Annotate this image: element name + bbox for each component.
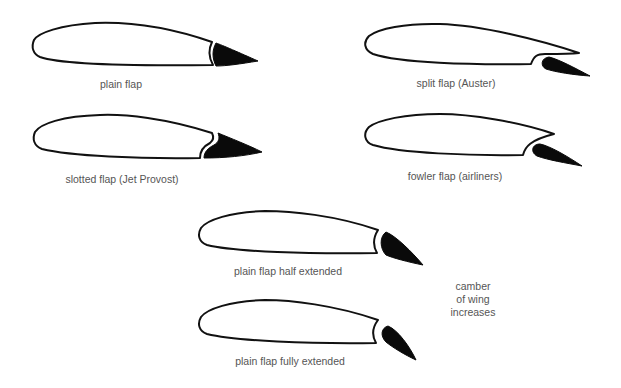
wing-section <box>34 115 214 158</box>
plain-flap-fully-extended-figure <box>199 300 416 360</box>
camber-annotation: camber of wing increases <box>451 280 496 319</box>
split-flap-label: split flap (Auster) <box>417 77 496 90</box>
slotted-flap-label: slotted flap (Jet Provost) <box>65 173 178 186</box>
diagram-drawing <box>0 0 621 388</box>
wing-section <box>33 23 213 65</box>
slotted-flap-figure <box>34 115 262 158</box>
plain-flap-fully-extended-label: plain flap fully extended <box>235 355 345 368</box>
plain-flap-half-extended-figure <box>199 211 423 265</box>
annotation-line-3: increases <box>451 306 496 319</box>
fowler-flap-figure <box>365 114 582 166</box>
fowler-flap-label: fowler flap (airliners) <box>408 170 503 183</box>
flap <box>382 326 416 360</box>
wing-section <box>365 114 554 155</box>
flap <box>381 232 423 265</box>
flap <box>533 144 582 166</box>
split-flap-figure <box>365 24 590 76</box>
annotation-line-1: camber <box>451 280 496 293</box>
plain-flap-label: plain flap <box>100 78 142 91</box>
annotation-line-2: of wing <box>451 293 496 306</box>
flap <box>542 57 590 76</box>
plain-flap-figure <box>33 23 258 66</box>
wing-section <box>199 211 378 253</box>
flap-types-diagram: plain flap split flap (Auster) slotted f… <box>0 0 621 388</box>
wing-section <box>199 300 378 343</box>
plain-flap-half-extended-label: plain flap half extended <box>234 265 342 278</box>
flap <box>213 43 258 66</box>
